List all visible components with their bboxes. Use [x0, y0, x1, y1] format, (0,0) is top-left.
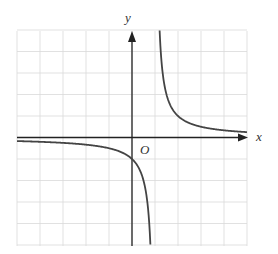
curve-left-branch	[17, 141, 150, 244]
x-axis-label: x	[255, 129, 262, 144]
graph: x y O	[0, 0, 278, 254]
curve-right-branch	[160, 31, 247, 133]
x-axis-arrow-icon	[238, 134, 248, 142]
origin-label: O	[140, 142, 150, 157]
axes	[17, 31, 248, 246]
y-axis-label: y	[123, 10, 131, 25]
y-axis-arrow-icon	[128, 31, 136, 42]
